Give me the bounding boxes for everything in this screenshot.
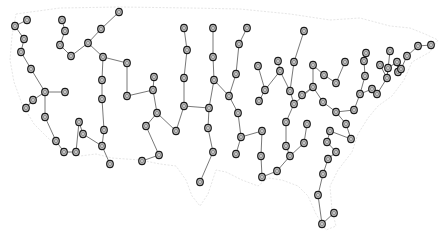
graph-node xyxy=(154,109,161,116)
graph-node xyxy=(206,104,213,111)
graph-node xyxy=(385,64,392,71)
graph-node xyxy=(12,22,19,29)
graph-node xyxy=(73,148,80,155)
graph-node xyxy=(59,16,66,23)
graph-node xyxy=(205,124,212,131)
graph-node xyxy=(197,178,204,185)
graph-node xyxy=(320,98,327,105)
graph-node xyxy=(258,152,265,159)
graph-node xyxy=(210,24,217,31)
graph-node xyxy=(211,76,218,83)
graph-edge xyxy=(102,99,104,130)
graph-node xyxy=(116,8,123,15)
graph-node xyxy=(362,72,369,79)
graph-node xyxy=(291,100,298,107)
graph-node xyxy=(233,150,240,157)
graph-node xyxy=(304,120,311,127)
graph-node xyxy=(156,151,163,158)
graph-node xyxy=(124,59,131,66)
graph-node xyxy=(18,48,25,55)
graph-node xyxy=(327,127,334,134)
graph-node xyxy=(21,35,28,42)
graph-node xyxy=(24,16,31,23)
graph-node xyxy=(151,73,158,80)
graph-node xyxy=(315,191,322,198)
graph-node xyxy=(226,92,233,99)
graph-node xyxy=(244,24,251,31)
graph-node xyxy=(301,139,308,146)
graph-node xyxy=(374,90,381,97)
graph-node xyxy=(61,148,68,155)
graph-node xyxy=(42,113,49,120)
graph-node xyxy=(100,53,107,60)
graph-node xyxy=(181,74,188,81)
graph-node xyxy=(68,52,75,59)
graph-node xyxy=(277,67,284,74)
graph-node xyxy=(361,57,368,64)
graph-node xyxy=(30,96,37,103)
graph-node xyxy=(415,42,422,49)
graph-node xyxy=(238,133,245,140)
graph-node xyxy=(357,90,364,97)
graph-node xyxy=(255,62,262,69)
graph-node xyxy=(101,126,108,133)
node-layer xyxy=(12,8,435,227)
graph-node xyxy=(301,27,308,34)
graph-node xyxy=(124,92,131,99)
graph-node xyxy=(287,152,294,159)
graph-node xyxy=(98,25,105,32)
graph-node xyxy=(428,41,435,48)
graph-node xyxy=(333,148,340,155)
graph-node xyxy=(283,142,290,149)
graph-node xyxy=(299,91,306,98)
graph-node xyxy=(363,49,370,56)
graph-node xyxy=(259,127,266,134)
graph-node xyxy=(233,70,240,77)
graph-node xyxy=(262,86,269,93)
graph-node xyxy=(333,79,340,86)
graph-node xyxy=(173,127,180,134)
graph-edge xyxy=(146,126,159,155)
graph-edge xyxy=(200,152,213,182)
graph-node xyxy=(99,76,106,83)
graph-edge xyxy=(209,80,214,108)
graph-node xyxy=(320,170,327,177)
graph-node xyxy=(235,109,242,116)
graph-node xyxy=(394,58,401,65)
graph-node xyxy=(259,173,266,180)
graph-node xyxy=(256,97,263,104)
graph-node xyxy=(53,137,60,144)
graph-node xyxy=(23,104,30,111)
graph-node xyxy=(387,47,394,54)
graph-node xyxy=(325,155,332,162)
graph-node xyxy=(310,61,317,68)
graph-node xyxy=(85,39,92,46)
graph-node xyxy=(80,130,87,137)
graph-edge xyxy=(127,90,153,96)
graph-node xyxy=(28,65,35,72)
graph-node xyxy=(287,87,294,94)
graph-node xyxy=(321,71,328,78)
graph-node xyxy=(291,58,298,65)
graph-node xyxy=(139,157,146,164)
graph-edge xyxy=(236,44,239,74)
graph-node xyxy=(384,74,391,81)
graph-node xyxy=(333,108,340,115)
graph-node xyxy=(99,95,106,102)
graph-node xyxy=(343,120,350,127)
graph-node xyxy=(404,52,411,59)
graph-node xyxy=(181,102,188,109)
graph-node xyxy=(210,148,217,155)
graph-node xyxy=(398,65,405,72)
graph-node xyxy=(331,209,338,216)
graph-node xyxy=(210,53,217,60)
graph-node xyxy=(310,83,317,90)
graph-node xyxy=(283,118,290,125)
graph-node xyxy=(275,57,282,64)
graph-edge xyxy=(294,31,304,62)
graph-node xyxy=(143,122,150,129)
graph-node xyxy=(62,88,69,95)
graph-canvas xyxy=(0,0,442,236)
graph-node xyxy=(274,167,281,174)
graph-node xyxy=(184,46,191,53)
